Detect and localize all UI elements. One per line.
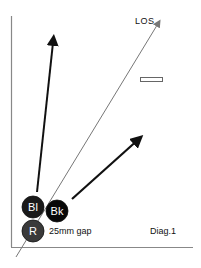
blue-ball-path-arrow [37,38,54,192]
aim-marker [141,78,163,82]
blue-ball-label: Bl [22,196,44,218]
black-ball-path-arrow [72,138,140,199]
red-ball-label: R [22,220,44,242]
black-ball-label: Bk [46,200,68,222]
diagram-title: Diag.1 [150,226,176,236]
gap-label: 25mm gap [49,226,92,236]
los-label: LOS [135,16,155,26]
